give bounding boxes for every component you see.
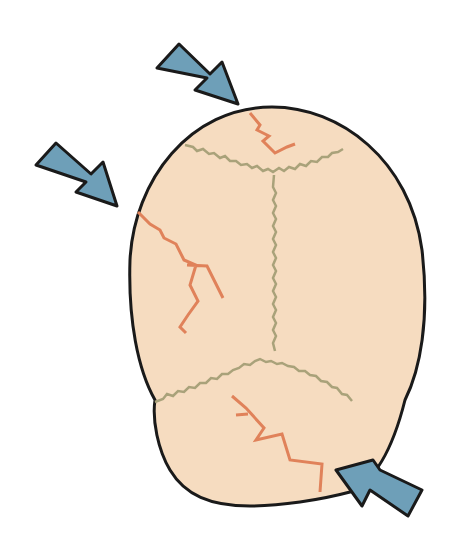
arrow-top <box>157 44 238 104</box>
skull-diagram <box>0 0 457 546</box>
arrow-bottom-right <box>336 460 422 516</box>
skull-outline <box>130 107 425 506</box>
arrow-left <box>36 143 117 206</box>
